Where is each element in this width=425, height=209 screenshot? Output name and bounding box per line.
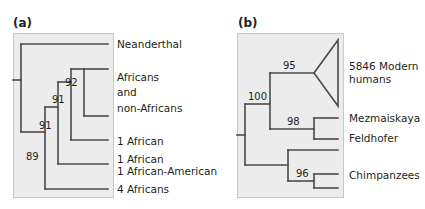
bootstrap-100: 100	[248, 91, 267, 102]
bootstrap-95: 95	[283, 60, 296, 71]
bootstrap-89: 89	[26, 151, 39, 162]
tip-chimpanzees: Chimpanzees	[349, 169, 420, 181]
tip-4-africans: 4 Africans	[117, 183, 169, 195]
tip-neanderthal: Neanderthal	[117, 38, 182, 50]
phylogeny-figure: (a) 92 91 91 89 Neanderthal Africans and	[0, 0, 425, 209]
tip-feldhofer: Feldhofer	[349, 132, 399, 144]
bootstrap-92: 92	[65, 77, 78, 88]
tip-1-african-b: 1 African	[117, 153, 164, 165]
tip-and: and	[117, 86, 137, 98]
panel-b: (b) 95 100 98 96 5846 Modern humans	[237, 16, 420, 198]
tip-mezmaiskaya: Mezmaiskaya	[349, 112, 420, 124]
bootstrap-91-upper: 91	[52, 94, 65, 105]
tip-modern-humans-2: humans	[349, 73, 391, 85]
tip-1-african-american: 1 African-American	[117, 165, 217, 177]
panel-a-label: (a)	[13, 16, 32, 30]
bootstrap-91-lower: 91	[39, 120, 52, 131]
panel-a: (a) 92 91 91 89 Neanderthal Africans and	[13, 16, 217, 198]
panel-b-label: (b)	[238, 16, 258, 30]
tip-1-african: 1 African	[117, 135, 164, 147]
bootstrap-98: 98	[287, 116, 300, 127]
bootstrap-96: 96	[296, 168, 309, 179]
tip-modern-humans-1: 5846 Modern	[349, 60, 418, 72]
tip-non-africans: non-Africans	[117, 102, 182, 114]
tip-africans: Africans	[117, 71, 159, 83]
